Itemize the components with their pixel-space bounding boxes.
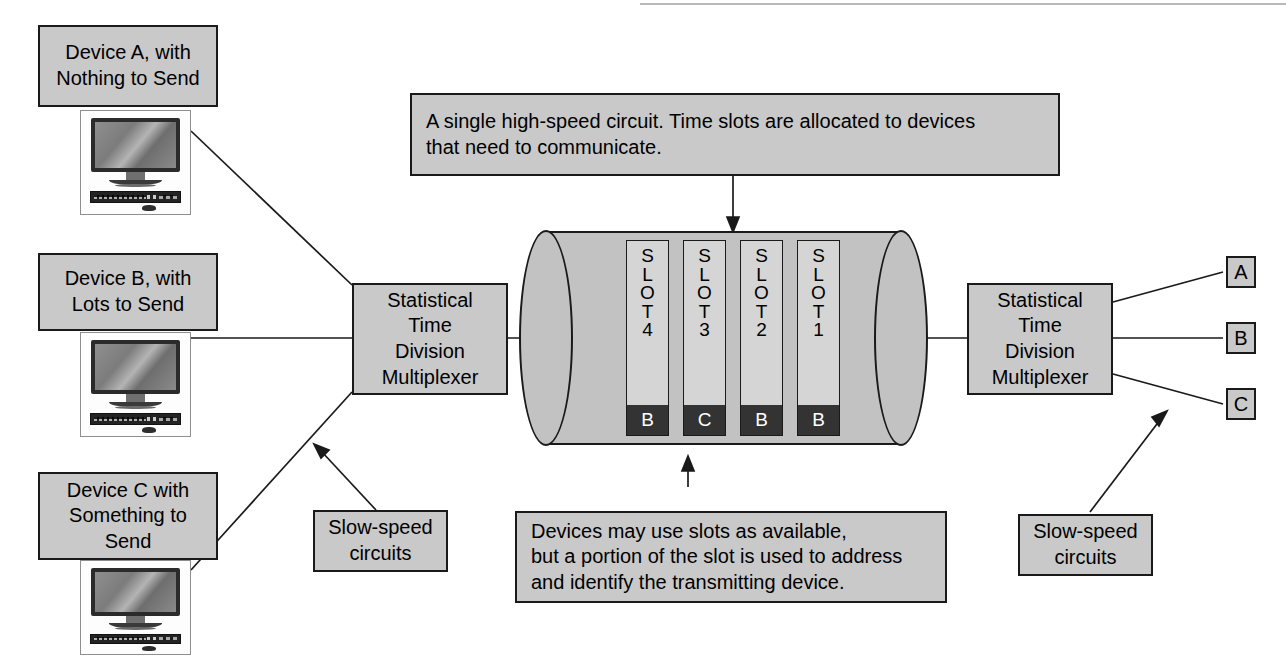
cylinder-top-edge xyxy=(546,231,901,233)
device-a-label: Device A, with Nothing to Send xyxy=(38,25,218,107)
keyboard-numpad xyxy=(159,417,177,421)
output-box-c: C xyxy=(1226,388,1256,420)
keyboard-icon xyxy=(90,634,182,644)
desktop-computer-icon xyxy=(81,111,190,214)
device-b-label-line2: Lots to Send xyxy=(72,293,184,315)
slow-speed-circuits-left: Slow-speed circuits xyxy=(313,510,448,572)
diagram-canvas: Device A, with Nothing to Send Device B,… xyxy=(0,0,1286,662)
multiplexer-right-line3: Division xyxy=(1005,340,1075,362)
bottom-callout: Devices may use slots as available, but … xyxy=(515,511,947,603)
multiplexer-left-line2: Time xyxy=(408,314,452,336)
keyboard-main-keys xyxy=(94,417,146,421)
slow-speed-right-line1: Slow-speed xyxy=(1033,520,1138,542)
arrow-bottom-callout-head xyxy=(682,456,694,471)
multiplexer-right-line1: Statistical xyxy=(997,289,1083,311)
arrow-slow-speed-right-head xyxy=(1152,411,1167,426)
multiplexer-left-line3: Division xyxy=(395,340,465,362)
slot-4-device-tag: B xyxy=(627,405,668,435)
slot-4: S L O T 4 B xyxy=(626,240,669,436)
slot-2-letter-1: S xyxy=(755,247,768,266)
keyboard-nav-keys xyxy=(147,195,159,198)
slot-2-letters: S L O T 2 xyxy=(754,247,769,340)
device-a-computer-frame xyxy=(80,110,191,215)
monitor-screen xyxy=(95,344,176,390)
monitor-bezel xyxy=(91,568,180,616)
desktop-computer-icon xyxy=(81,333,190,436)
mouse-icon xyxy=(142,205,156,211)
slot-1-device-tag: B xyxy=(798,405,839,435)
device-c-label-line2: Something to xyxy=(69,504,187,526)
top-callout-line2: that need to communicate. xyxy=(426,136,662,158)
slot-1: S L O T 1 B xyxy=(797,240,840,436)
monitor-screen xyxy=(95,572,176,612)
keyboard-nav-keys xyxy=(147,637,159,640)
monitor-screen xyxy=(95,122,176,168)
slot-1-letters: S L O T 1 xyxy=(811,247,826,340)
slow-speed-left-line1: Slow-speed xyxy=(328,516,433,538)
keyboard-icon xyxy=(90,413,182,424)
slow-speed-circuits-right: Slow-speed circuits xyxy=(1018,514,1153,576)
monitor-base xyxy=(115,627,156,630)
keyboard-numpad xyxy=(159,637,177,640)
bottom-callout-line1: Devices may use slots as available, xyxy=(531,520,847,542)
slot-3-letters: S L O T 3 xyxy=(697,247,712,340)
output-box-a: A xyxy=(1226,256,1256,288)
device-c-label-line1: Device C with xyxy=(67,479,189,501)
keyboard-main-keys xyxy=(94,195,146,199)
slot-3-letter-1: S xyxy=(698,247,711,266)
device-b-label: Device B, with Lots to Send xyxy=(38,253,218,331)
device-c-label: Device C with Something to Send xyxy=(38,472,218,560)
slot-4-letter-1: S xyxy=(641,247,654,266)
slot-2: S L O T 2 B xyxy=(740,240,783,436)
multiplexer-left-line1: Statistical xyxy=(387,289,473,311)
keyboard-numpad xyxy=(159,195,177,199)
arrow-top-callout-head xyxy=(727,217,739,232)
device-a-label-line1: Device A, with xyxy=(65,41,191,63)
slot-1-letter-1: S xyxy=(812,247,825,266)
arrow-slow-speed-right-shaft xyxy=(1090,420,1160,512)
monitor-base xyxy=(115,406,156,410)
output-box-b: B xyxy=(1226,322,1256,354)
slow-speed-right-line2: circuits xyxy=(1054,546,1116,568)
top-callout: A single high-speed circuit. Time slots … xyxy=(410,93,1060,176)
wire-mux-to-output-c xyxy=(1113,374,1223,404)
multiplexer-right-line4: Multiplexer xyxy=(992,366,1089,388)
device-b-computer-frame xyxy=(80,332,191,437)
arrow-slow-speed-left-shaft xyxy=(322,452,376,510)
arrow-slow-speed-left-head xyxy=(314,444,329,458)
mouse-icon xyxy=(142,427,156,433)
cylinder-right-cap xyxy=(874,230,928,446)
monitor-bezel xyxy=(91,340,180,394)
slot-3-device-tag: C xyxy=(684,405,725,435)
slot-3: S L O T 3 C xyxy=(683,240,726,436)
page-edge-artifact xyxy=(640,3,1286,5)
device-c-label-line3: Send xyxy=(105,530,152,552)
keyboard-icon xyxy=(90,191,182,202)
top-callout-line1: A single high-speed circuit. Time slots … xyxy=(426,110,975,132)
device-c-computer-frame xyxy=(80,560,191,655)
slot-4-letters: S L O T 4 xyxy=(640,247,655,340)
slow-speed-left-line2: circuits xyxy=(349,542,411,564)
slot-2-device-tag: B xyxy=(741,405,782,435)
bottom-callout-line3: and identify the transmitting device. xyxy=(531,571,845,593)
cylinder-bottom-edge xyxy=(546,443,901,445)
mouse-icon xyxy=(142,646,156,652)
keyboard-main-keys xyxy=(94,637,146,640)
wire-mux-to-output-a xyxy=(1113,272,1223,302)
slot-4-letter-5: 4 xyxy=(642,321,653,340)
cylinder-left-cap xyxy=(519,230,573,446)
slot-3-letter-5: 3 xyxy=(699,321,710,340)
bottom-callout-line2: but a portion of the slot is used to add… xyxy=(531,545,902,567)
multiplexer-left-line4: Multiplexer xyxy=(382,366,479,388)
multiplexer-right-line2: Time xyxy=(1018,314,1062,336)
monitor-bezel xyxy=(91,118,180,172)
monitor-base xyxy=(115,184,156,188)
desktop-computer-icon xyxy=(81,561,190,654)
device-b-label-line1: Device B, with xyxy=(65,267,192,289)
multiplexer-right: Statistical Time Division Multiplexer xyxy=(967,283,1113,395)
slot-2-letter-5: 2 xyxy=(756,321,767,340)
device-a-label-line2: Nothing to Send xyxy=(56,67,199,89)
slot-1-letter-5: 1 xyxy=(813,321,824,340)
multiplexer-left: Statistical Time Division Multiplexer xyxy=(352,283,508,395)
keyboard-nav-keys xyxy=(147,417,159,420)
